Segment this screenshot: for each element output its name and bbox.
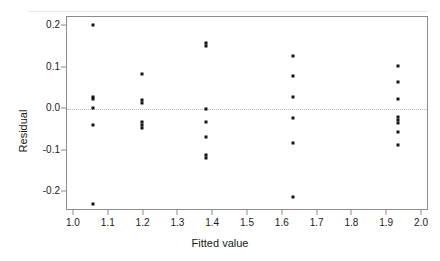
scatter-point xyxy=(291,141,294,144)
scatter-point xyxy=(204,107,207,110)
x-tick-mark xyxy=(107,210,108,215)
scatter-point xyxy=(397,121,400,124)
x-tick-mark xyxy=(212,210,213,215)
y-tick-label: 0.0 xyxy=(46,103,60,113)
x-tick-label: 1.6 xyxy=(275,218,289,228)
scatter-point xyxy=(291,96,294,99)
y-tick-label: -0.2 xyxy=(43,186,60,196)
x-tick-label: 1.7 xyxy=(310,218,324,228)
x-tick-label: 2.0 xyxy=(414,218,428,228)
plot-area xyxy=(66,16,428,210)
x-tick-label: 1.5 xyxy=(240,218,254,228)
x-tick-mark xyxy=(142,210,143,215)
x-tick-mark xyxy=(247,210,248,215)
x-tick-label: 1.1 xyxy=(101,218,115,228)
scatter-point xyxy=(140,127,143,130)
scan-artifact-line xyxy=(28,11,428,12)
x-axis-label: Fitted value xyxy=(0,237,440,249)
x-tick-label: 1.0 xyxy=(66,218,80,228)
scatter-point xyxy=(204,136,207,139)
x-tick-label: 1.9 xyxy=(379,218,393,228)
scatter-point xyxy=(92,98,95,101)
scatter-point xyxy=(140,101,143,104)
scatter-point xyxy=(92,23,95,26)
scatter-point xyxy=(291,195,294,198)
x-tick-mark xyxy=(72,210,73,215)
x-tick-mark xyxy=(316,210,317,215)
y-tick-label: 0.1 xyxy=(46,62,60,72)
scatter-point xyxy=(291,75,294,78)
y-axis-tick-labels: 0.20.10.0-0.1-0.2 xyxy=(32,0,60,261)
x-tick-label: 1.2 xyxy=(136,218,150,228)
scatter-point xyxy=(204,120,207,123)
scatter-point xyxy=(92,202,95,205)
y-tick-label: -0.1 xyxy=(43,145,60,155)
scatter-point xyxy=(397,81,400,84)
scatter-point xyxy=(397,65,400,68)
y-axis-label: Residual xyxy=(17,109,29,152)
x-tick-label: 1.3 xyxy=(170,218,184,228)
x-tick-mark xyxy=(281,210,282,215)
y-tick-label: 0.2 xyxy=(46,20,60,30)
x-tick-mark xyxy=(177,210,178,215)
x-tick-label: 1.8 xyxy=(344,218,358,228)
scatter-point xyxy=(291,55,294,58)
scatter-point xyxy=(92,106,95,109)
scatter-point xyxy=(92,123,95,126)
scatter-point xyxy=(397,98,400,101)
x-tick-mark xyxy=(351,210,352,215)
x-tick-label: 1.4 xyxy=(205,218,219,228)
scatter-point xyxy=(291,116,294,119)
scatter-point xyxy=(204,157,207,160)
scatter-point xyxy=(140,72,143,75)
scatter-point xyxy=(397,143,400,146)
x-tick-mark xyxy=(421,210,422,215)
residual-plot-figure: Residual 0.20.10.0-0.1-0.2 1.01.11.21.31… xyxy=(0,0,440,261)
scatter-point xyxy=(397,131,400,134)
scatter-point xyxy=(204,44,207,47)
zero-reference-line xyxy=(67,109,427,110)
x-tick-mark xyxy=(386,210,387,215)
